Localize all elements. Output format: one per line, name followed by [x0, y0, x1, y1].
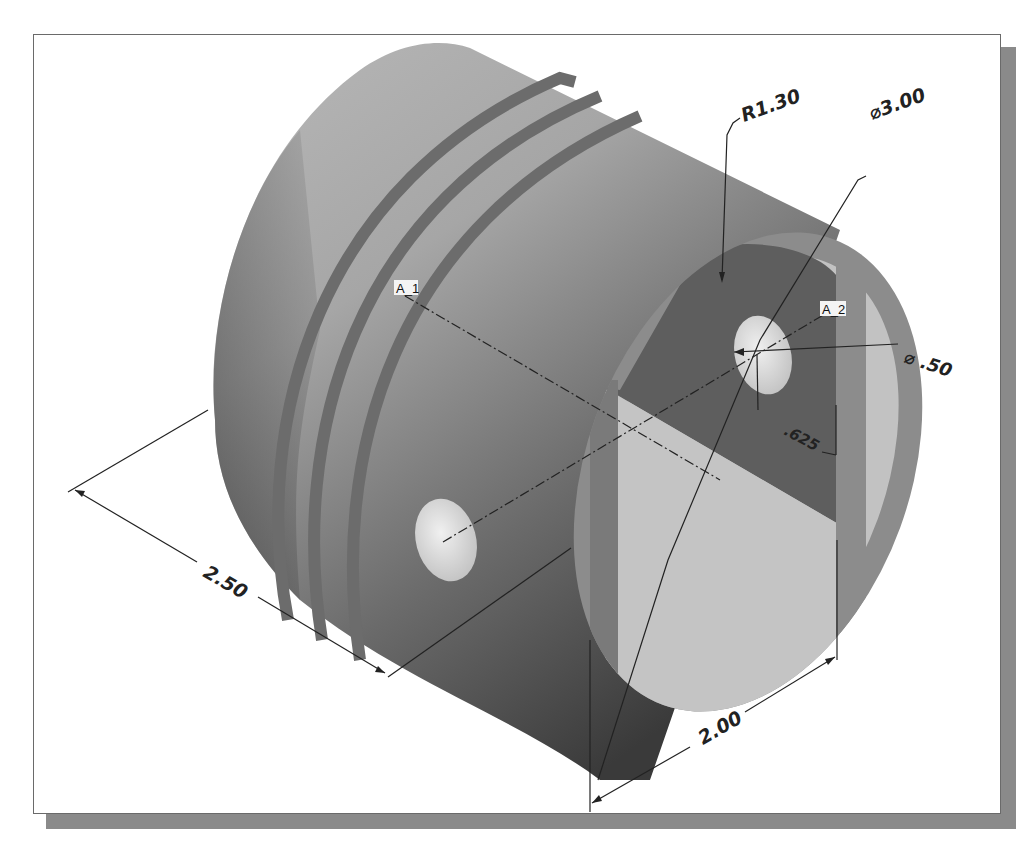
dim-outer-diameter-label: ⌀3.00: [866, 83, 928, 124]
dim-length-label: 2.50: [200, 560, 252, 602]
dim-radius-label: R1.30: [738, 84, 803, 126]
axis-tag-a2: A_2: [820, 301, 846, 317]
piston-drawing: A_1 A_2 R1.30 ⌀3.00 ⌀ .50 .625 2.50 2.00: [0, 0, 1025, 848]
axis-tag-a1: A_1: [394, 280, 419, 296]
axis-tag-a2-label: A_2: [822, 302, 845, 317]
axis-tag-a1-label: A_1: [396, 281, 419, 296]
dim-cut-width-label: 2.00: [694, 706, 746, 748]
